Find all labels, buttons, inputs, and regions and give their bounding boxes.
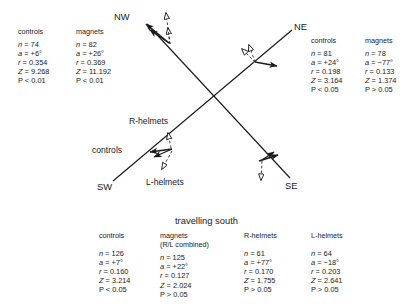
- stat-value-z: 2.024: [173, 281, 192, 290]
- stat-block-title: controls: [99, 231, 130, 240]
- stat-value-p: P > 0.05: [365, 85, 393, 94]
- stat-row-a: a = +7°: [99, 258, 130, 267]
- stat-row-p: P > 0.05: [311, 285, 343, 294]
- stat-row-r: r = 0.198: [311, 67, 342, 76]
- stat-value-p: P < 0.05: [99, 285, 127, 294]
- stat-value-z: 11.192: [89, 67, 111, 76]
- stat-row-n: n = 74: [18, 40, 49, 49]
- stat-row-p: P < 0.01: [76, 76, 111, 85]
- stat-block-title: magnets: [76, 27, 111, 36]
- stat-block-title: magnets: [365, 36, 396, 45]
- stat-row-r: r = 0.127: [160, 271, 209, 280]
- stat-row-n: n = 126: [99, 249, 130, 258]
- stat-row-r: r = 0.203: [311, 267, 343, 276]
- stat-value-a: +26°: [89, 49, 105, 58]
- stat-value-r: 0.170: [255, 267, 274, 276]
- stat-row-z: Z = 11.192: [76, 67, 111, 76]
- stat-block-bottom-l-helmets: L-helmets n = 64 a = −18° r = 0.203 Z = …: [311, 231, 343, 295]
- vector-cluster-nw: [146, 13, 170, 44]
- stat-value-n: 64: [324, 249, 332, 258]
- stat-row-n: n = 125: [160, 253, 209, 262]
- stat-block-top-right-controls: controls n = 81 a = +24° r = 0.198 Z = 3…: [311, 36, 342, 95]
- stat-value-r: 0.369: [87, 58, 106, 67]
- stat-row-z: Z = 3.214: [99, 276, 130, 285]
- stat-row-p: P > 0.05: [365, 85, 396, 94]
- stat-row-z: Z = 2.641: [311, 276, 343, 285]
- vector-cluster-sw: [150, 133, 172, 169]
- stat-value-r: 0.133: [376, 67, 395, 76]
- stat-row-a: a = −18°: [311, 258, 343, 267]
- stat-row-r: r = 0.369: [76, 58, 111, 67]
- axis-label-ne: NE: [294, 21, 307, 32]
- stat-row-z: Z = 1.755: [244, 276, 277, 285]
- stat-row-r: r = 0.133: [365, 67, 396, 76]
- stat-row-a: a = +6°: [18, 49, 49, 58]
- stat-row-n: n = 82: [76, 40, 111, 49]
- stat-row-a: a = −77°: [365, 58, 396, 67]
- stat-value-n: 61: [257, 249, 265, 258]
- stat-value-n: 126: [112, 249, 124, 258]
- stat-row-a: a = +24°: [311, 58, 342, 67]
- stat-block-bottom-controls: controls n = 126 a = +7° r = 0.160 Z = 3…: [99, 231, 130, 295]
- stat-block-top-left-magnets: magnets n = 82 a = +26° r = 0.369 Z = 11…: [76, 27, 111, 86]
- stat-row-p: P < 0.01: [18, 76, 49, 85]
- stat-row-r: r = 0.170: [244, 267, 277, 276]
- point-label-controls: controls: [92, 145, 122, 155]
- stat-block-bottom-r-helmets: R-helmets n = 61 a = +77° r = 0.170 Z = …: [244, 231, 277, 295]
- stat-value-a: +77°: [257, 258, 273, 267]
- stat-value-r: 0.354: [29, 58, 48, 67]
- stat-value-n: 82: [89, 40, 97, 49]
- stat-value-r: 0.160: [110, 267, 129, 276]
- stat-row-p: P < 0.05: [311, 85, 342, 94]
- section-title-travelling-south: travelling south: [175, 215, 238, 226]
- stat-row-a: a = +77°: [244, 258, 277, 267]
- stat-row-z: Z = 2.024: [160, 281, 209, 290]
- stat-row-r: r = 0.354: [18, 58, 49, 67]
- stat-value-p: P < 0.01: [18, 76, 46, 85]
- stat-value-r: 0.127: [171, 271, 190, 280]
- stat-value-z: 1.755: [257, 276, 276, 285]
- stat-value-n: 125: [173, 253, 185, 262]
- stat-row-p: P > 0.05: [244, 285, 277, 294]
- stat-block-title: controls: [311, 36, 342, 45]
- stat-block-title: R-helmets: [244, 231, 277, 240]
- stat-block-title: controls: [18, 27, 49, 36]
- stat-value-n: 78: [378, 49, 386, 58]
- stat-value-a: −77°: [378, 58, 394, 67]
- axis-label-nw: NW: [114, 11, 130, 22]
- stat-block-title: L-helmets: [311, 231, 343, 240]
- stat-block-title: magnets: [160, 231, 209, 240]
- stat-row-p: P < 0.05: [99, 285, 130, 294]
- stat-row-r: r = 0.160: [99, 267, 130, 276]
- stat-row-n: n = 81: [311, 49, 342, 58]
- stat-row-p: P > 0.05: [160, 290, 209, 299]
- stat-value-r: 0.203: [322, 267, 341, 276]
- stat-value-z: 3.164: [324, 76, 343, 85]
- stat-block-subtitle: (R/L combined): [160, 241, 209, 250]
- stat-row-a: a = +26°: [76, 49, 111, 58]
- stat-row-n: n = 61: [244, 249, 277, 258]
- stat-value-p: P > 0.05: [160, 290, 188, 299]
- stat-value-n: 74: [31, 40, 39, 49]
- stat-value-p: P < 0.01: [76, 76, 104, 85]
- stat-value-z: 9.268: [31, 67, 50, 76]
- vector-cluster-se: [259, 152, 278, 180]
- axis-label-se: SE: [285, 180, 298, 191]
- axis-label-sw: SW: [97, 181, 112, 192]
- point-label-l-helmets: L-helmets: [146, 177, 184, 187]
- stat-row-a: a = +22°: [160, 262, 209, 271]
- stat-value-a: +24°: [324, 58, 340, 67]
- stat-value-z: 2.641: [324, 276, 343, 285]
- stat-value-z: 1.374: [378, 76, 397, 85]
- stat-value-p: P > 0.05: [244, 285, 272, 294]
- stat-value-p: P > 0.05: [311, 285, 339, 294]
- stat-value-a: −18°: [324, 258, 340, 267]
- point-label-r-helmets: R-helmets: [129, 116, 168, 126]
- stat-block-bottom-magnets: magnets (R/L combined) n = 125 a = +22° …: [160, 231, 209, 299]
- stat-block-top-right-magnets: magnets n = 78 a = −77° r = 0.133 Z = 1.…: [365, 36, 396, 95]
- stat-row-z: Z = 3.164: [311, 76, 342, 85]
- stat-row-n: n = 78: [365, 49, 396, 58]
- stat-row-z: Z = 1.374: [365, 76, 396, 85]
- stat-value-z: 3.214: [112, 276, 131, 285]
- stat-value-n: 81: [324, 49, 332, 58]
